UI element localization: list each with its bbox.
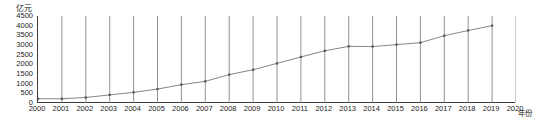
- data-point-marker: [300, 56, 302, 58]
- data-point-marker: [180, 84, 182, 86]
- x-axis-tick: 2019: [483, 105, 500, 113]
- x-axis-tick: 2004: [124, 105, 141, 113]
- y-axis-tick: 4000: [16, 22, 33, 30]
- data-point-marker: [252, 69, 254, 71]
- x-axis-tick: 2010: [268, 105, 285, 113]
- data-point-marker: [109, 94, 111, 96]
- y-axis-tick: 1000: [16, 80, 33, 88]
- data-point-marker: [491, 25, 493, 27]
- x-axis-tick: 2003: [100, 105, 117, 113]
- series-markers: [38, 25, 493, 100]
- plot-area: [37, 16, 515, 103]
- x-axis-tick: 2012: [315, 105, 332, 113]
- data-point-marker: [85, 96, 87, 98]
- y-axis-tick: 2500: [16, 51, 33, 59]
- x-axis-tick: 2014: [363, 105, 380, 113]
- data-point-marker: [61, 98, 63, 100]
- plot-svg: [38, 16, 516, 103]
- x-axis-tick: 2000: [29, 105, 46, 113]
- data-point-marker: [38, 98, 39, 100]
- x-axis-tick: 2006: [172, 105, 189, 113]
- y-axis-tick-labels: 050010001500200025003000350040004500: [0, 16, 35, 103]
- x-axis-tick: 2013: [339, 105, 356, 113]
- data-point-marker: [276, 62, 278, 64]
- x-axis-tick: 2015: [387, 105, 404, 113]
- data-point-marker: [204, 80, 206, 82]
- line-chart: 亿元 050010001500200025003000350040004500 …: [0, 0, 537, 130]
- x-axis-tick: 2001: [53, 105, 70, 113]
- x-axis-tick: 2002: [76, 105, 93, 113]
- data-point-marker: [372, 45, 374, 47]
- series-line: [38, 26, 492, 99]
- x-axis-tick: 2009: [244, 105, 261, 113]
- y-axis-tick: 4500: [16, 12, 33, 20]
- y-axis-tick: 2000: [16, 61, 33, 69]
- x-axis-tick: 2011: [292, 105, 308, 113]
- data-point-marker: [228, 73, 230, 75]
- x-axis-title: 年份: [518, 107, 532, 118]
- x-axis-tick: 2017: [435, 105, 452, 113]
- data-point-marker: [348, 45, 350, 47]
- y-axis-tick: 3000: [16, 41, 33, 49]
- y-axis-tick: 3500: [16, 32, 33, 40]
- data-point-marker: [156, 88, 158, 90]
- x-axis-tick: 2008: [220, 105, 237, 113]
- x-axis-tick: 2005: [148, 105, 165, 113]
- data-point-marker: [467, 29, 469, 31]
- data-point-marker: [395, 44, 397, 46]
- x-axis-tick: 2018: [459, 105, 476, 113]
- x-axis-tick-labels: 2000200120022003200420052006200720082009…: [37, 105, 515, 119]
- x-axis-tick: 2007: [196, 105, 213, 113]
- data-point-marker: [419, 42, 421, 44]
- y-axis-tick: 500: [20, 90, 33, 98]
- data-point-marker: [133, 91, 135, 93]
- gridlines: [62, 16, 516, 103]
- data-point-marker: [443, 35, 445, 37]
- y-axis-tick: 1500: [16, 70, 33, 78]
- data-line: [38, 26, 492, 99]
- data-point-marker: [324, 50, 326, 52]
- x-axis-tick: 2016: [411, 105, 428, 113]
